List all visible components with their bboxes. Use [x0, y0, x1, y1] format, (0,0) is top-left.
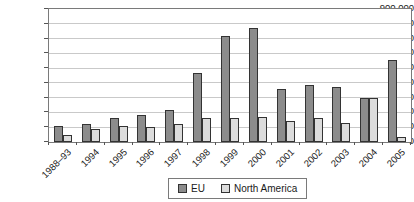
bar-north-america-1999: [230, 118, 239, 142]
bar-chart: 0100,000200,000300,000400,000500,000600,…: [0, 0, 414, 202]
x-tick-mark: [159, 142, 160, 145]
x-tick-mark: [271, 142, 272, 145]
bar-north-america-2002: [314, 118, 323, 142]
bar-eu-2002: [305, 85, 314, 142]
x-tick-label: 1997: [162, 147, 184, 169]
gridline: [49, 38, 411, 39]
x-tick-label: 1999: [218, 147, 240, 169]
x-tick-label: 1995: [107, 147, 129, 169]
x-tick-mark: [48, 142, 49, 145]
x-tick-mark: [410, 142, 411, 145]
x-tick-mark: [354, 142, 355, 145]
bar-north-america-1994: [91, 129, 100, 142]
gridline: [49, 23, 411, 24]
bar-eu-2003: [332, 87, 341, 142]
bar-eu-1996: [137, 115, 146, 142]
gridline: [49, 82, 411, 83]
x-tick-label: 2003: [329, 147, 351, 169]
x-tick-label: 2004: [357, 147, 379, 169]
legend-label-north-america: North America: [234, 183, 297, 194]
bar-eu-1999: [221, 36, 230, 142]
x-tick-mark: [326, 142, 327, 145]
legend-item-eu: EU: [178, 183, 205, 194]
north-america-swatch-icon: [221, 184, 230, 193]
legend-item-north-america: North America: [221, 183, 297, 194]
bar-eu-2004: [360, 98, 369, 142]
legend-label-eu: EU: [191, 183, 205, 194]
x-tick-mark: [187, 142, 188, 145]
gridline: [49, 97, 411, 98]
bar-eu-1995: [110, 118, 119, 142]
x-tick-label: 2001: [274, 147, 296, 169]
x-tick-label: 2002: [302, 147, 324, 169]
bar-north-america-2004: [369, 98, 378, 142]
bar-north-america-2003: [341, 123, 350, 142]
x-tick-mark: [132, 142, 133, 145]
bar-north-america-1997: [174, 124, 183, 142]
bar-eu-2005: [388, 60, 397, 142]
x-tick-label: 1998: [190, 147, 212, 169]
x-tick-mark: [76, 142, 77, 145]
bar-north-america-2001: [286, 121, 295, 142]
x-tick-label: 1996: [135, 147, 157, 169]
bar-eu-2000: [249, 28, 258, 142]
eu-swatch-icon: [178, 184, 187, 193]
bar-eu-1998: [193, 73, 202, 142]
bar-eu-1994: [82, 124, 91, 142]
x-tick-mark: [382, 142, 383, 145]
bar-north-america-2005: [397, 137, 406, 142]
bar-north-america-1998: [202, 118, 211, 142]
x-tick-label: 2000: [246, 147, 268, 169]
bar-eu-1997: [165, 110, 174, 142]
bar-eu-2001: [277, 89, 286, 142]
gridline: [49, 53, 411, 54]
x-tick-label: 1994: [79, 147, 101, 169]
x-tick-mark: [215, 142, 216, 145]
gridline: [49, 68, 411, 69]
bar-eu-198893: [54, 126, 63, 142]
bar-north-america-2000: [258, 117, 267, 142]
x-tick-label: 1988–93: [40, 147, 73, 180]
bar-north-america-1996: [146, 127, 155, 142]
bar-north-america-1995: [119, 126, 128, 142]
x-tick-mark: [243, 142, 244, 145]
gridline: [49, 112, 411, 113]
bar-north-america-198893: [63, 135, 72, 142]
x-tick-mark: [299, 142, 300, 145]
x-tick-mark: [104, 142, 105, 145]
plot-area: [48, 8, 412, 143]
x-tick-label: 2005: [385, 147, 407, 169]
legend: EU North America: [168, 178, 307, 199]
